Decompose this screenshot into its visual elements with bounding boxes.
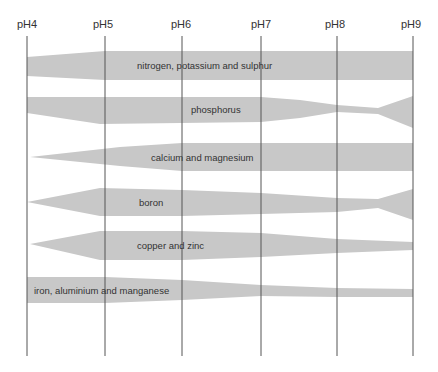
band-label-phosphorus: phosphorus (191, 104, 241, 115)
band-label-iron: iron, aluminium and manganese (34, 285, 169, 296)
tick-label-ph6: pH6 (171, 18, 191, 30)
band-boron (27, 188, 413, 220)
tick-label-ph4: pH4 (17, 18, 37, 30)
band-label-calcium: calcium and magnesium (151, 152, 254, 163)
tick-label-ph9: pH9 (401, 18, 421, 30)
band-copper-zinc (30, 231, 413, 260)
tick-label-ph7: pH7 (251, 18, 271, 30)
tick-label-ph5: pH5 (93, 18, 113, 30)
tick-label-ph8: pH8 (325, 18, 345, 30)
nutrient-availability-chart: pH4 pH5 pH6 pH7 pH8 pH9 nitrogen, potass… (0, 0, 438, 372)
band-label-copper-zinc: copper and zinc (137, 240, 204, 251)
band-label-boron: boron (139, 197, 163, 208)
band-label-nitrogen: nitrogen, potassium and sulphur (137, 60, 272, 71)
